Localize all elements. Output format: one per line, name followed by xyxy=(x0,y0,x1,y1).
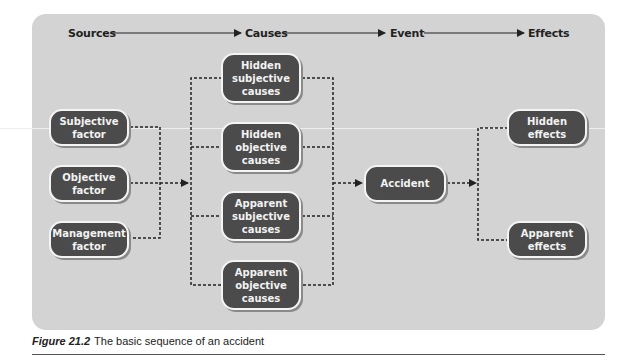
node-hidden-effects: Hidden effects xyxy=(507,109,587,146)
node-apparent-effects: Apparent effects xyxy=(507,221,587,258)
node-hidden-subjective-causes: Hidden subjective causes xyxy=(221,53,301,103)
stage-label-effects: Effects xyxy=(528,27,569,40)
node-management-factor: Management factor xyxy=(49,221,129,258)
node-hidden-objective-causes: Hidden objective causes xyxy=(221,122,301,172)
stage-label-causes: Causes xyxy=(245,27,288,40)
figure-caption-text: The basic sequence of an accident xyxy=(94,335,264,347)
node-apparent-objective-causes: Apparent objective causes xyxy=(221,260,301,310)
figure-label: Figure 21.2 xyxy=(32,335,90,347)
stage-label-event: Event xyxy=(390,27,424,40)
node-objective-factor: Objective factor xyxy=(49,165,129,202)
caption-rule xyxy=(32,354,605,355)
node-apparent-subjective-causes: Apparent subjective causes xyxy=(221,191,301,241)
node-subjective-factor: Subjective factor xyxy=(49,109,129,146)
stage-label-sources: Sources xyxy=(68,27,116,40)
figure-caption: Figure 21.2The basic sequence of an acci… xyxy=(32,335,264,347)
node-accident: Accident xyxy=(364,165,446,202)
